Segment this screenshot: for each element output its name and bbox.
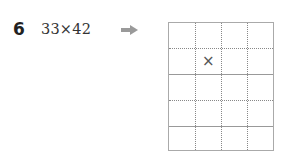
grid-column-divider [195,23,196,150]
grid-column-divider [247,23,248,150]
problem-number: 6 [13,19,25,39]
multiplication-grid: × [168,22,274,151]
grid-column-divider [221,23,222,150]
problem-expression: 33×42 [41,21,91,37]
right-arrow-icon [121,25,138,35]
times-mark: × [202,52,215,70]
grid-row-divider [169,74,273,75]
grid-row-divider [169,100,273,101]
grid-row-divider [169,48,273,49]
grid-row-divider [169,126,273,127]
